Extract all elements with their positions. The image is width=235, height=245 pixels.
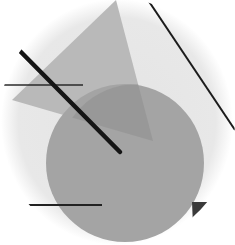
artwork-canvas	[0, 0, 235, 245]
artwork-svg	[0, 0, 235, 245]
